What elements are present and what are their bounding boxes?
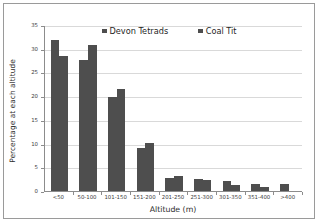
bar — [194, 179, 203, 191]
x-tick-label: 351-400 — [248, 195, 271, 200]
gridline — [45, 50, 302, 51]
y-tick-mark — [41, 168, 44, 169]
chart-frame: Percentage at each altitude Devon Tetrad… — [3, 3, 315, 219]
y-tick-mark — [41, 50, 44, 51]
bar — [51, 40, 60, 191]
legend-entry: Coal Tit — [198, 26, 236, 36]
bar — [223, 181, 232, 191]
x-tick-label: 251-300 — [190, 195, 213, 200]
bar — [88, 45, 97, 191]
bar — [280, 184, 289, 191]
y-tick-label: 0 — [22, 189, 38, 194]
x-tick-label: 201-250 — [162, 195, 185, 200]
y-tick-mark — [41, 121, 44, 122]
x-tick-mark — [130, 192, 131, 195]
x-tick-mark — [73, 192, 74, 195]
bar — [231, 185, 240, 191]
bar — [260, 187, 269, 191]
x-tick-label: <50 — [53, 195, 64, 200]
y-tick-mark — [41, 73, 44, 74]
bar — [117, 89, 126, 191]
x-tick-mark — [302, 192, 303, 195]
legend-swatch-icon — [102, 29, 107, 34]
y-tick-label: 5 — [22, 166, 38, 171]
x-tick-mark — [245, 192, 246, 195]
x-tick-label: 151-200 — [133, 195, 156, 200]
y-tick-label: 20 — [22, 94, 38, 99]
y-axis-title: Percentage at each altitude — [8, 59, 17, 163]
y-tick-label: 30 — [22, 47, 38, 52]
bar — [145, 143, 154, 191]
y-tick-mark — [41, 192, 44, 193]
x-tick-label: 50-100 — [77, 195, 96, 200]
y-tick-mark — [41, 145, 44, 146]
x-tick-mark — [159, 192, 160, 195]
y-tick-mark — [41, 97, 44, 98]
y-tick-label: 25 — [22, 71, 38, 76]
x-tick-label: 101-150 — [104, 195, 127, 200]
plot-area — [44, 26, 302, 192]
x-tick-label: >400 — [280, 195, 295, 200]
bar — [251, 184, 260, 191]
y-tick-mark — [41, 26, 44, 27]
legend-label: Devon Tetrads — [110, 26, 169, 36]
x-tick-mark — [216, 192, 217, 195]
bar — [137, 148, 146, 191]
x-tick-mark — [273, 192, 274, 195]
x-tick-mark — [187, 192, 188, 195]
x-tick-mark — [101, 192, 102, 195]
bar — [165, 178, 174, 191]
legend-swatch-icon — [198, 29, 203, 34]
legend-label: Coal Tit — [206, 26, 237, 36]
chart-legend: Devon TetradsCoal Tit — [102, 26, 237, 36]
x-axis-title: Altitude (m) — [44, 205, 302, 214]
y-tick-label: 10 — [22, 142, 38, 147]
y-tick-label: 15 — [22, 118, 38, 123]
legend-entry: Devon Tetrads — [102, 26, 168, 36]
bar — [79, 60, 88, 191]
bar — [59, 56, 68, 191]
bar — [108, 97, 117, 191]
x-tick-label: 301-350 — [219, 195, 242, 200]
y-tick-label: 35 — [22, 23, 38, 28]
bar — [203, 180, 212, 191]
bar — [174, 176, 183, 191]
